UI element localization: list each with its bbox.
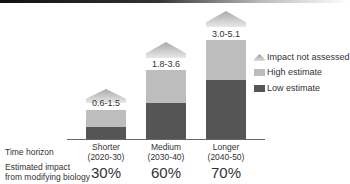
dark-gray-swatch-icon: [254, 85, 265, 92]
legend-label: High estimate: [267, 67, 322, 78]
category-years-longer: (2040-50): [196, 152, 256, 162]
bar-medium: 1.8-3.6: [146, 0, 186, 140]
category-years-medium: (2030-40): [136, 152, 196, 162]
low-estimate-segment: [206, 80, 246, 139]
light-gray-swatch-icon: [254, 69, 265, 76]
high-estimate-segment: [206, 40, 246, 80]
time-horizon-label: Time horizon: [5, 147, 54, 157]
low-estimate-segment: [86, 127, 126, 139]
range-label: 0.6-1.5: [80, 98, 132, 108]
legend-label: Low estimate: [267, 83, 320, 94]
range-label: 3.0-5.1: [200, 29, 252, 39]
category-years-shorter: (2020-30): [76, 152, 136, 162]
bar-longer: 3.0-5.1: [206, 0, 246, 140]
impact-pct-longer: 70%: [196, 165, 256, 181]
low-estimate-segment: [146, 103, 186, 139]
impact-not-assessed-arrow-icon: [206, 11, 246, 27]
impact-pct-shorter: 30%: [76, 165, 136, 181]
impact-label-line1: Estimated impact: [5, 162, 70, 172]
category-label-longer: Longer: [196, 142, 256, 152]
range-label: 1.8-3.6: [140, 59, 192, 69]
category-label-shorter: Shorter: [76, 142, 136, 152]
category-label-medium: Medium: [136, 142, 196, 152]
arrow-up-icon: [254, 54, 265, 61]
high-estimate-segment: [86, 110, 126, 127]
impact-pct-medium: 60%: [136, 165, 196, 181]
high-estimate-segment: [146, 70, 186, 103]
legend-label: Impact not assessed: [267, 52, 350, 63]
x-axis-baseline: [67, 139, 265, 140]
bar-shorter: 0.6-1.5: [86, 0, 126, 140]
impact-not-assessed-arrow-icon: [146, 42, 186, 58]
